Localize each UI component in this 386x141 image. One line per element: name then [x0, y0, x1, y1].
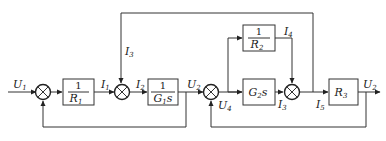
label-I2: I2: [135, 78, 145, 92]
summing-junction-1: [36, 85, 51, 100]
label-I4: I4: [283, 25, 293, 39]
svg-text:1: 1: [256, 26, 262, 37]
block-diagram: 1 R1 1 G1s 1 R2 G2s R3 U1 I1 I2 I3 U2 U4…: [0, 0, 386, 141]
label-U3: U2: [187, 78, 201, 92]
summing-junction-3: [204, 85, 219, 100]
summing-junction-2: [115, 85, 130, 100]
block-1-over-G1s: 1 G1s: [148, 79, 178, 106]
block-1-over-R2: 1 R2: [243, 25, 275, 52]
block-R3: R3: [329, 79, 358, 105]
label-U4: U4: [218, 99, 232, 113]
label-U2: U2: [363, 78, 377, 92]
label-I3-lower: I3: [277, 98, 287, 112]
label-I5: I5: [315, 98, 325, 112]
block-1-over-R1: 1 R1: [63, 79, 94, 106]
label-U1: U1: [13, 78, 27, 92]
svg-text:1: 1: [160, 80, 166, 91]
svg-text:1: 1: [75, 80, 81, 91]
label-I3-top: I3: [124, 45, 134, 59]
label-I1: I1: [100, 78, 110, 92]
block-G2s: G2s: [243, 79, 275, 105]
summing-junction-4: [285, 85, 300, 100]
